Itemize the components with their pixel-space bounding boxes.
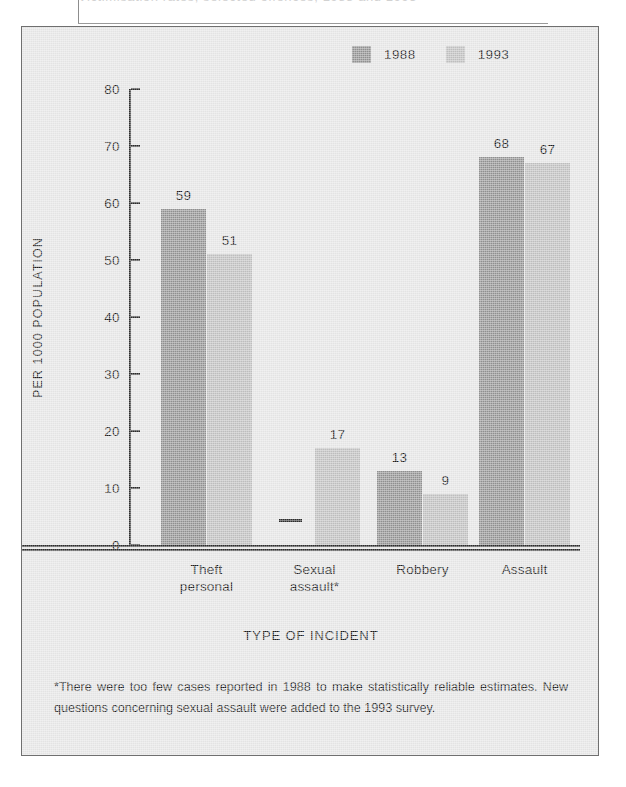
x-axis-baseline-lower	[22, 549, 580, 551]
bar-1988-2: 13	[377, 471, 422, 545]
y-tick-50	[131, 259, 140, 261]
y-axis-title: PER 1000 POPULATION	[31, 237, 45, 398]
legend-label-1988: 1988	[384, 47, 416, 62]
category-label-line: assault*	[255, 578, 375, 595]
legend-item-1993: 1993	[446, 46, 510, 63]
y-tick-label-60: 60	[104, 196, 120, 211]
plot-area: 01020304050607080 5951171396867	[129, 89, 581, 545]
bar-1988-3: 68	[479, 157, 524, 545]
legend-item-1988: 1988	[352, 46, 416, 63]
bar-1988-0: 59	[161, 209, 206, 545]
bar-value-label-1988-2: 13	[392, 450, 408, 465]
cut-off-title-strip: Victimisation rates, selected offences, …	[78, 0, 548, 9]
category-label-line: Assault	[465, 561, 585, 578]
y-tick-label-80: 80	[104, 82, 120, 97]
bar-value-label-1993-1: 17	[330, 427, 346, 442]
bar-1993-0: 51	[207, 254, 252, 545]
y-tick-label-30: 30	[104, 367, 120, 382]
legend-swatch-1988	[352, 46, 371, 63]
x-axis-title: TYPE OF INCIDENT	[22, 628, 600, 643]
category-label-line: personal	[147, 578, 267, 595]
category-label-1: Sexualassault*	[255, 561, 375, 595]
category-label-line: Sexual	[255, 561, 375, 578]
chart-panel: 1988 1993 PER 1000 POPULATION 0102030405…	[21, 26, 599, 756]
bar-value-label-1988-3: 68	[494, 136, 510, 151]
bar-1993-2: 9	[423, 494, 468, 545]
y-tick-60	[131, 202, 140, 204]
chart-legend: 1988 1993	[352, 46, 509, 63]
y-tick-80	[131, 88, 140, 90]
footnote-text: *There were too few cases reported in 19…	[54, 677, 568, 719]
y-tick-label-40: 40	[104, 310, 120, 325]
bar-value-label-1993-0: 51	[222, 233, 238, 248]
header-rule-vertical	[78, 0, 79, 24]
bar-1993-3: 67	[525, 163, 570, 545]
category-label-0: Theftpersonal	[147, 561, 267, 595]
y-tick-label-70: 70	[104, 139, 120, 154]
category-label-line: Theft	[147, 561, 267, 578]
y-tick-30	[131, 373, 140, 375]
y-tick-10	[131, 487, 140, 489]
legend-label-1993: 1993	[478, 47, 510, 62]
y-tick-label-20: 20	[104, 424, 120, 439]
legend-swatch-1993	[446, 46, 465, 63]
x-axis-baseline-upper	[22, 545, 580, 547]
y-tick-40	[131, 316, 140, 318]
bar-value-label-1993-3: 67	[540, 142, 556, 157]
y-tick-20	[131, 430, 140, 432]
y-tick-label-50: 50	[104, 253, 120, 268]
header-rule-horizontal	[78, 23, 548, 24]
category-label-3: Assault	[465, 561, 585, 578]
y-tick-label-10: 10	[104, 481, 120, 496]
no-data-dash-1988	[279, 519, 302, 522]
bar-1993-1: 17	[315, 448, 360, 545]
bar-value-label-1988-0: 59	[176, 188, 192, 203]
cut-off-title-text: Victimisation rates, selected offences, …	[78, 0, 417, 4]
y-tick-70	[131, 145, 140, 147]
bar-value-label-1993-2: 9	[442, 473, 450, 488]
